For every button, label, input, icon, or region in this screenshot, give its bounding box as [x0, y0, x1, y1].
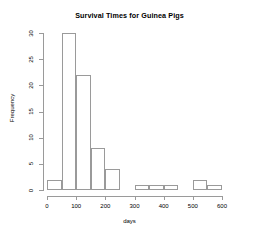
histogram-bar [47, 180, 62, 190]
x-axis-tick [222, 196, 223, 200]
y-axis-tick [39, 164, 43, 165]
histogram-bar [135, 185, 150, 190]
x-axis-tick-label: 400 [151, 203, 177, 210]
y-axis-tick [39, 85, 43, 86]
x-axis-tick-label: 500 [180, 203, 206, 210]
x-axis-tick-label: 0 [34, 203, 60, 210]
histogram-bar [105, 169, 120, 190]
x-axis-title: days [0, 218, 259, 224]
x-axis-tick [164, 196, 165, 200]
y-axis-tick [39, 138, 43, 139]
histogram-bar [207, 185, 222, 190]
histogram-bar [76, 75, 91, 190]
histogram-bar [91, 148, 106, 190]
y-axis-line [43, 33, 44, 191]
histogram-figure: Survival Times for Guinea Pigs Frequency… [0, 0, 259, 239]
y-axis-tick [39, 190, 43, 191]
y-axis-tick-label: 10 [28, 128, 35, 148]
x-axis-tick-label: 300 [122, 203, 148, 210]
x-axis-tick-label: 600 [209, 203, 235, 210]
x-axis-tick [105, 196, 106, 200]
y-axis-tick-label: 5 [28, 154, 35, 174]
y-axis-tick [39, 33, 43, 34]
plot-area [47, 33, 222, 190]
y-axis-tick-label: 15 [28, 102, 35, 122]
y-axis-tick-label: 20 [28, 75, 35, 95]
histogram-bar [164, 185, 179, 190]
y-axis-tick [39, 112, 43, 113]
y-axis-title: Frequency [9, 83, 15, 133]
y-axis-tick-label: 0 [28, 180, 35, 200]
y-axis-tick-label: 25 [28, 49, 35, 69]
x-axis-tick-label: 100 [63, 203, 89, 210]
histogram-bar [193, 180, 208, 190]
y-axis-tick-label: 30 [28, 23, 35, 43]
histogram-bar [149, 185, 164, 190]
x-axis-tick [47, 196, 48, 200]
chart-title: Survival Times for Guinea Pigs [0, 11, 259, 20]
x-axis-tick [193, 196, 194, 200]
x-axis-tick [135, 196, 136, 200]
y-axis-tick [39, 59, 43, 60]
x-axis-tick-label: 200 [92, 203, 118, 210]
histogram-bar [62, 33, 77, 190]
x-axis-tick [76, 196, 77, 200]
